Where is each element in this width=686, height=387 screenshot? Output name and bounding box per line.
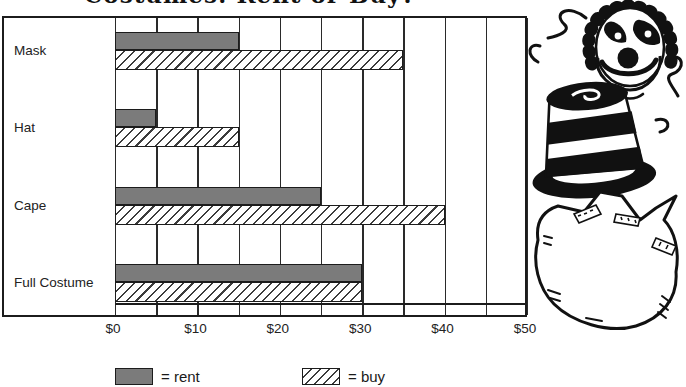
legend-buy-label: = buy	[348, 368, 385, 385]
legend-rent-label: = rent	[161, 368, 200, 385]
cape	[536, 192, 678, 329]
bar-rent-mask	[115, 32, 239, 50]
legend-item-buy: = buy	[302, 368, 385, 385]
gridline	[486, 18, 487, 315]
gridline	[403, 18, 404, 315]
chart-title: Costumes: Rent or Buy?	[0, 0, 500, 8]
page: Costumes: Rent or Buy? MaskHatCapeFull C…	[0, 0, 686, 387]
rent-swatch-icon	[115, 368, 153, 385]
bar-buy-mask	[115, 50, 403, 70]
bar-buy-cape	[115, 205, 445, 225]
x-tick-label-usd10: $10	[173, 321, 217, 336]
gridline	[445, 18, 446, 315]
bar-rent-full-costume	[115, 264, 362, 282]
x-tick-label-usd0: $0	[91, 321, 135, 336]
category-label-hat: Hat	[14, 120, 35, 136]
category-label-full-costume: Full Costume	[14, 275, 94, 291]
x-tick-label-usd40: $40	[421, 321, 465, 336]
bar-buy-full-costume	[115, 282, 362, 302]
category-label-mask: Mask	[14, 43, 46, 59]
legend-item-rent: = rent	[115, 368, 200, 385]
bar-rent-hat	[115, 109, 156, 127]
x-tick-label-usd30: $30	[338, 321, 382, 336]
x-tick-label-usd20: $20	[256, 321, 300, 336]
bar-buy-hat	[115, 127, 239, 147]
chart-frame: MaskHatCapeFull Costume	[2, 16, 527, 317]
axis-strip-line	[115, 303, 525, 305]
legend: = rent = buy	[0, 368, 520, 387]
bar-rent-cape	[115, 187, 321, 205]
clown-illustration	[528, 0, 686, 345]
category-label-cape: Cape	[14, 198, 46, 214]
buy-swatch-icon	[302, 368, 340, 385]
